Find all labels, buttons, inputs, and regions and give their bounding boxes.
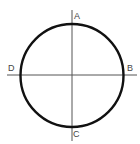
label-d: D xyxy=(8,64,15,73)
label-b: B xyxy=(127,64,133,73)
label-a: A xyxy=(74,12,80,21)
label-c: C xyxy=(73,130,80,139)
circle-diagram xyxy=(0,0,140,144)
